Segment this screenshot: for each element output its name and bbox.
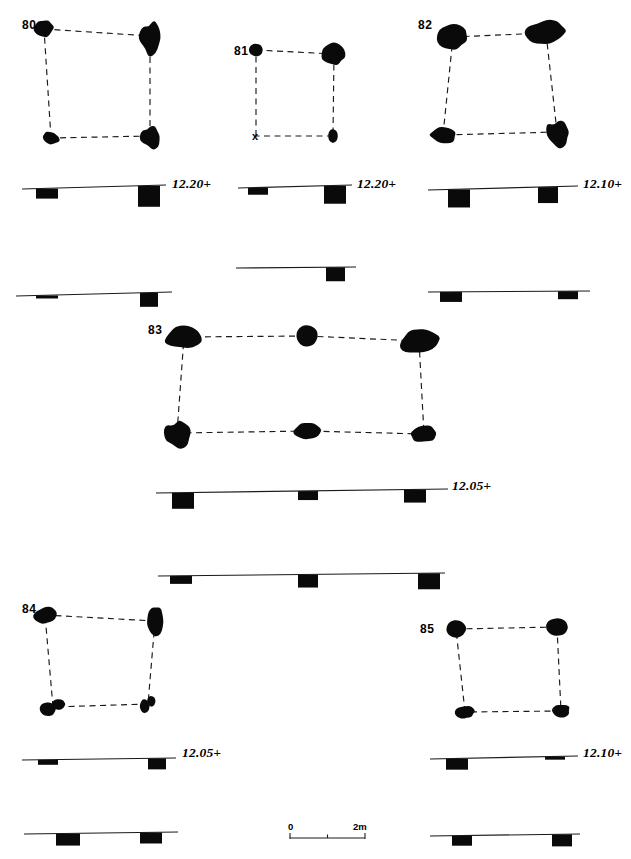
- section-post: [440, 292, 462, 302]
- section-post: [140, 293, 158, 307]
- x-marker: x: [252, 130, 259, 142]
- structure-label-82: 82: [418, 18, 432, 32]
- elevation-label: 12.10+: [583, 745, 622, 760]
- section-post: [298, 491, 318, 500]
- section-post: [446, 759, 468, 770]
- scale-bar-end-label: 2m: [353, 821, 367, 832]
- structure-label-85: 85: [420, 622, 434, 636]
- structure-label-81: 81: [234, 44, 248, 58]
- structure-label-84: 84: [22, 602, 36, 616]
- structure-label-83: 83: [148, 323, 162, 337]
- section-post: [298, 575, 318, 588]
- figure-sheet: 8012.20+x8112.20+8212.10+8312.05+8412.05…: [0, 0, 631, 859]
- plate-svg: 8012.20+x8112.20+8212.10+8312.05+8412.05…: [0, 0, 631, 859]
- section-post: [552, 834, 572, 846]
- elevation-label: 12.10+: [583, 176, 622, 191]
- elevation-label: 12.05+: [452, 478, 491, 493]
- section-post: [172, 493, 194, 509]
- section-post: [56, 834, 80, 846]
- scale-bar-start-label: 0: [288, 821, 293, 832]
- section-post: [38, 760, 58, 765]
- elevation-label: 12.05+: [182, 745, 221, 760]
- section-post: [140, 832, 162, 843]
- section-post: [448, 189, 470, 207]
- section-post: [170, 576, 192, 584]
- section-post: [148, 758, 166, 769]
- section-post: [452, 836, 472, 846]
- section-post: [248, 188, 268, 195]
- section-post: [558, 291, 578, 299]
- elevation-label: 12.20+: [172, 176, 211, 191]
- structure-label-80: 80: [22, 18, 36, 32]
- section-post: [36, 189, 58, 199]
- section-post: [418, 573, 440, 589]
- elevation-label: 12.20+: [357, 176, 396, 191]
- section-post: [326, 267, 345, 281]
- section-post: [324, 186, 346, 204]
- section-post: [138, 186, 160, 207]
- section-post: [538, 187, 558, 203]
- section-post: [404, 490, 426, 503]
